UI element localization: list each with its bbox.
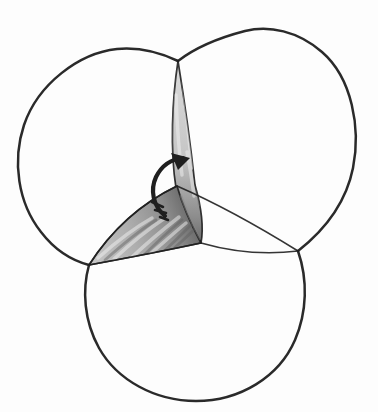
- figure-canvas: [0, 0, 378, 412]
